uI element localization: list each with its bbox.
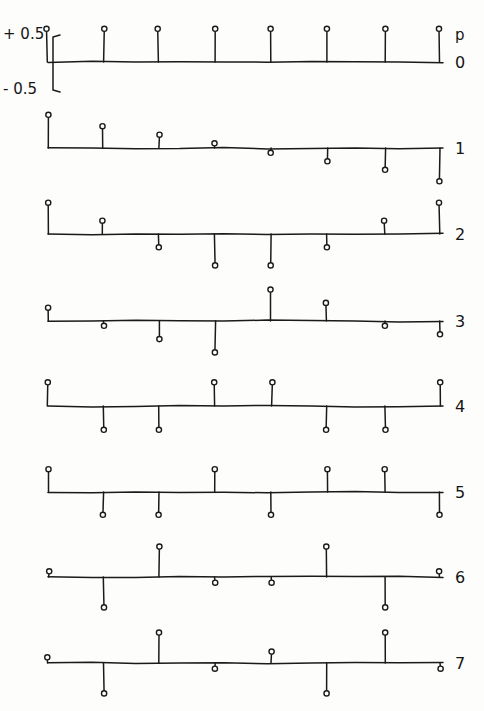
- stem-marker: [438, 666, 443, 671]
- stem-line: [103, 577, 104, 607]
- stem-line: [159, 547, 160, 577]
- stem-marker: [437, 569, 442, 574]
- stem-marker: [100, 512, 105, 517]
- stem-row-2: 2: [46, 200, 466, 268]
- stem-marker: [101, 427, 106, 432]
- zero-axis-line: [48, 320, 443, 322]
- zero-axis-line: [48, 576, 443, 577]
- zero-axis-line: [48, 492, 443, 493]
- row-index-label-7: 7: [455, 654, 465, 673]
- stem-marker: [212, 141, 217, 146]
- stem-marker: [324, 427, 329, 432]
- stem-marker: [156, 512, 161, 517]
- stem-marker: [324, 691, 329, 696]
- stem-marker: [438, 380, 443, 385]
- stem-marker: [101, 323, 106, 328]
- row-index-label-0: 0: [455, 53, 465, 72]
- stem-marker: [268, 150, 273, 155]
- stem-row-7: 7: [45, 630, 465, 696]
- stem-line: [326, 406, 327, 430]
- stem-marker: [157, 132, 162, 137]
- stem-marker: [213, 26, 218, 31]
- stem-line: [215, 321, 216, 352]
- stem-marker: [100, 124, 105, 129]
- stem-marker: [46, 112, 51, 117]
- stem-row-6: 6: [47, 544, 466, 610]
- row-index-label-1: 1: [455, 139, 465, 158]
- stem-marker: [383, 26, 388, 31]
- stem-marker: [212, 666, 217, 671]
- stem-marker: [157, 337, 162, 342]
- stem-marker: [212, 350, 217, 355]
- zero-axis-line: [48, 406, 443, 407]
- stem-row-1: 1: [46, 112, 465, 184]
- stem-marker: [436, 26, 441, 31]
- stem-marker: [383, 427, 388, 432]
- stem-marker: [213, 263, 218, 268]
- amplitude-scale-bracket: [53, 35, 60, 92]
- stem-marker: [268, 287, 273, 292]
- stem-marker: [102, 691, 107, 696]
- stem-line: [439, 148, 440, 181]
- stem-marker: [157, 544, 162, 549]
- stem-marker: [437, 332, 442, 337]
- stem-marker: [324, 26, 329, 31]
- stem-marker: [382, 323, 387, 328]
- figure-root: + 0.5 - 0.5 p 01234567: [0, 0, 484, 711]
- zero-axis-line: [48, 233, 443, 235]
- stem-marker: [324, 245, 329, 250]
- stem-line: [47, 29, 48, 62]
- row-index-label-2: 2: [455, 225, 465, 244]
- stem-line: [272, 382, 273, 406]
- stem-line: [439, 29, 440, 62]
- stem-marker: [46, 305, 51, 310]
- stem-marker: [270, 380, 275, 385]
- stem-marker: [383, 167, 388, 172]
- stem-marker: [155, 26, 160, 31]
- stem-marker: [212, 467, 217, 472]
- stem-plot-figure: + 0.5 - 0.5 p 01234567: [0, 0, 484, 711]
- stem-marker: [383, 605, 388, 610]
- stem-line: [214, 234, 215, 265]
- stem-marker: [324, 544, 329, 549]
- stem-line: [385, 406, 386, 430]
- zero-axis-line: [48, 61, 443, 63]
- stem-line: [158, 29, 159, 62]
- stem-marker: [46, 467, 51, 472]
- stem-marker: [213, 580, 218, 585]
- stem-line: [104, 663, 105, 693]
- row-index-label-4: 4: [455, 397, 465, 416]
- stem-marker: [45, 655, 50, 660]
- stem-rows-group: 01234567: [44, 26, 465, 696]
- row-index-label-6: 6: [455, 568, 465, 587]
- stem-line: [104, 29, 105, 62]
- stem-marker: [212, 380, 217, 385]
- stem-line: [439, 203, 440, 234]
- stem-marker: [156, 245, 161, 250]
- stem-line: [47, 382, 48, 406]
- stem-marker: [102, 26, 107, 31]
- stem-row-4: 4: [45, 380, 465, 433]
- stem-marker: [44, 26, 49, 31]
- row-index-label-3: 3: [455, 312, 465, 331]
- zero-axis-line: [48, 147, 443, 149]
- p-variable-label: p: [455, 26, 465, 44]
- row-index-label-5: 5: [455, 483, 465, 502]
- zero-axis-line: [48, 662, 443, 663]
- stem-row-0: 0: [44, 26, 465, 72]
- stem-marker: [325, 467, 330, 472]
- stem-marker: [100, 218, 105, 223]
- scale-bottom-label: - 0.5: [3, 80, 37, 98]
- stem-marker: [156, 630, 161, 635]
- stem-marker: [47, 569, 52, 574]
- stem-marker: [382, 467, 387, 472]
- stem-line: [103, 492, 104, 515]
- stem-marker: [436, 200, 441, 205]
- stem-line: [103, 406, 104, 430]
- stem-marker: [323, 300, 328, 305]
- stem-marker: [437, 512, 442, 517]
- stem-marker: [269, 649, 274, 654]
- stem-marker: [45, 380, 50, 385]
- stem-marker: [325, 159, 330, 164]
- stem-marker: [382, 218, 387, 223]
